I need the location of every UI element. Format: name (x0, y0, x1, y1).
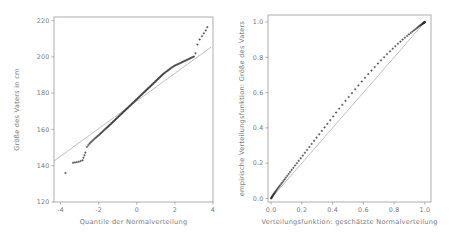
data-point (370, 69, 372, 71)
data-point (203, 32, 205, 34)
data-point (285, 177, 287, 179)
data-point (76, 161, 78, 163)
data-point (367, 73, 369, 75)
data-point (194, 52, 196, 54)
data-point (386, 53, 388, 55)
data-points (64, 26, 208, 174)
data-point (399, 40, 401, 42)
x-tick-label: 0.0 (266, 206, 277, 214)
x-tick-label: -2 (95, 206, 102, 214)
figure-container: -4-2024120140160180200220Quantile der No… (0, 0, 462, 246)
x-tick-label: 1.0 (419, 206, 430, 214)
data-point (199, 38, 201, 40)
x-tick-label: 4 (211, 206, 215, 214)
x-axis: 0.00.20.40.60.81.0 (266, 202, 431, 214)
data-point (206, 26, 208, 28)
data-point (410, 32, 412, 34)
pp-plot-svg: 0.00.20.40.60.81.00.00.20.40.60.81.0Vert… (231, 0, 462, 246)
data-point (282, 180, 284, 182)
data-point (402, 38, 404, 40)
data-point (404, 37, 406, 39)
data-point (406, 35, 408, 37)
y-tick-label: 0.6 (253, 89, 264, 97)
data-point (196, 43, 198, 45)
y-tick-label: 0.2 (253, 159, 264, 167)
data-point (87, 144, 89, 146)
data-point (351, 92, 353, 94)
y-axis-label: empirische Verteilungsfunktion: Größe de… (238, 20, 246, 196)
data-point (294, 164, 296, 166)
x-axis: -4-2024 (57, 202, 215, 214)
data-point (315, 136, 317, 138)
x-tick-label: 0.4 (327, 206, 338, 214)
data-point (86, 146, 88, 148)
data-point (383, 56, 385, 58)
data-point (64, 172, 66, 174)
data-point (304, 152, 306, 154)
data-point (318, 133, 320, 135)
data-point (394, 45, 396, 47)
y-tick-label: 200 (37, 53, 50, 61)
data-point (354, 88, 356, 90)
axes-frame (54, 17, 213, 202)
data-point (88, 142, 90, 144)
data-point (302, 154, 304, 156)
data-point (377, 62, 379, 64)
x-tick-label: 0.2 (296, 206, 307, 214)
data-point (82, 157, 84, 159)
y-tick-label: 0.8 (253, 54, 264, 62)
data-point (74, 161, 76, 163)
qq-plot-panel: -4-2024120140160180200220Quantile der No… (0, 0, 231, 246)
x-tick-label: 0.6 (358, 206, 369, 214)
y-tick-label: 220 (37, 17, 50, 25)
data-point (321, 130, 323, 132)
data-point (83, 154, 85, 156)
data-point (205, 29, 207, 31)
y-tick-label: 0.4 (253, 124, 264, 132)
data-point (306, 149, 308, 151)
data-point (296, 162, 298, 164)
data-point (374, 66, 376, 68)
y-tick-label: 180 (37, 89, 50, 97)
data-point (332, 115, 334, 117)
data-point (411, 30, 413, 32)
y-tick-label: 1.0 (253, 18, 264, 26)
data-point (389, 50, 391, 52)
x-tick-label: -4 (57, 206, 64, 214)
y-axis-label: Größe des Vaters in cm (13, 68, 21, 150)
data-point (287, 173, 289, 175)
data-point (335, 111, 337, 113)
data-point (72, 162, 74, 164)
x-axis-label: Verteilungsfunktion: geschätzte Normalve… (261, 218, 437, 226)
data-point (323, 126, 325, 128)
qq-plot-svg: -4-2024120140160180200220Quantile der No… (0, 0, 231, 246)
data-point (392, 48, 394, 50)
x-axis-label: Quantile der Normalverteilung (80, 218, 188, 226)
data-point (357, 84, 359, 86)
pp-plot-panel: 0.00.20.40.60.81.00.00.20.40.60.81.0Vert… (231, 0, 462, 246)
data-point (329, 119, 331, 121)
data-point (311, 143, 313, 145)
y-axis: 120140160180200220 (37, 17, 54, 206)
data-point (313, 140, 315, 142)
y-tick-label: 0.0 (253, 195, 264, 203)
data-point (291, 169, 293, 171)
data-point (380, 59, 382, 61)
data-point (286, 175, 288, 177)
data-point (364, 77, 366, 79)
y-tick-label: 140 (37, 162, 50, 170)
data-point (292, 167, 294, 169)
data-point (344, 100, 346, 102)
data-point (338, 108, 340, 110)
x-tick-label: 2 (173, 206, 177, 214)
data-point (348, 96, 350, 98)
data-point (201, 35, 203, 37)
x-tick-label: 0 (135, 206, 139, 214)
y-axis: 0.00.20.40.60.81.0 (253, 18, 268, 202)
data-point (300, 157, 302, 159)
data-point (283, 178, 285, 180)
data-point (84, 152, 86, 154)
data-point (289, 171, 291, 173)
x-tick-label: 0.8 (389, 206, 400, 214)
data-point (341, 104, 343, 106)
